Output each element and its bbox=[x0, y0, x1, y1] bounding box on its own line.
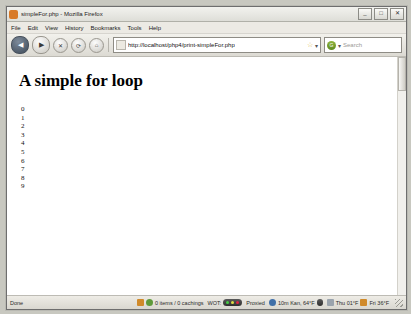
weather-icon bbox=[327, 299, 334, 306]
forward-icon[interactable]: ▶ bbox=[32, 36, 50, 54]
network-indicator[interactable]: 10m Kan, 64°F bbox=[269, 299, 323, 306]
window-title: simpleFor.php - Mozilla Firefox bbox=[21, 11, 103, 17]
menu-item-edit[interactable]: Edit bbox=[28, 25, 38, 31]
list-item: 5 bbox=[21, 148, 396, 157]
wot-dot-red-icon bbox=[236, 301, 239, 304]
url-text[interactable]: http://localhost/php4/print-simpleFor.ph… bbox=[128, 42, 235, 48]
search-chevron-icon[interactable]: ▾ bbox=[338, 42, 341, 49]
list-item: 0 bbox=[21, 105, 396, 114]
list-item: 1 bbox=[21, 114, 396, 123]
menu-item-bookmarks[interactable]: Bookmarks bbox=[91, 25, 121, 31]
scrollbar-thumb[interactable] bbox=[398, 57, 406, 91]
reload-icon[interactable]: ⟳ bbox=[71, 38, 86, 53]
list-item: 6 bbox=[21, 157, 396, 166]
menu-item-history[interactable]: History bbox=[65, 25, 84, 31]
vertical-scrollbar[interactable] bbox=[397, 57, 406, 295]
transfer-indicator[interactable]: 0 items / 0 cachings bbox=[137, 299, 204, 306]
proxy-indicator[interactable]: Proxied bbox=[246, 300, 265, 306]
transfer-icon bbox=[137, 299, 144, 306]
menu-item-tools[interactable]: Tools bbox=[128, 25, 142, 31]
list-item: 2 bbox=[21, 122, 396, 131]
weather-sun-icon bbox=[360, 299, 367, 306]
menu-item-help[interactable]: Help bbox=[149, 25, 161, 31]
list-item: 4 bbox=[21, 139, 396, 148]
list-item: 7 bbox=[21, 165, 396, 174]
status-text: Done bbox=[10, 300, 23, 306]
network-pill bbox=[317, 299, 323, 306]
minimize-button[interactable]: _ bbox=[358, 8, 372, 20]
page-title: A simple for loop bbox=[19, 71, 396, 91]
loop-output-list: 0 1 2 3 4 5 6 7 8 9 bbox=[21, 105, 396, 191]
network-label: 10m Kan, 64°F bbox=[278, 300, 315, 306]
window-controls: _ □ ✕ bbox=[358, 8, 404, 20]
close-button[interactable]: ✕ bbox=[390, 8, 404, 20]
menu-item-view[interactable]: View bbox=[45, 25, 58, 31]
wot-label: WOT: bbox=[208, 300, 222, 306]
weather-tomorrow-label: Fri 36°F bbox=[369, 300, 389, 306]
toolbar-separator bbox=[108, 38, 109, 52]
url-bar-icons: ☆ ▾ bbox=[307, 41, 318, 49]
list-item: 8 bbox=[21, 174, 396, 183]
favicon-icon bbox=[116, 40, 126, 50]
stop-icon[interactable]: ✕ bbox=[53, 38, 68, 53]
search-engine-icon[interactable]: G bbox=[327, 41, 336, 50]
weather-indicator[interactable]: Thu 01°F Fri 36°F bbox=[327, 299, 389, 306]
menu-bar: File Edit View History Bookmarks Tools H… bbox=[7, 22, 406, 34]
wot-dot-green-icon bbox=[226, 301, 229, 304]
shield-icon bbox=[146, 299, 153, 306]
transfer-label: 0 items / 0 cachings bbox=[155, 300, 204, 306]
network-icon bbox=[269, 299, 276, 306]
list-item: 9 bbox=[21, 182, 396, 191]
wot-rating-pill[interactable] bbox=[223, 299, 242, 306]
bookmark-star-icon[interactable]: ☆ bbox=[307, 41, 313, 49]
browser-window: simpleFor.php - Mozilla Firefox _ □ ✕ Fi… bbox=[6, 6, 407, 310]
back-icon[interactable]: ◀ bbox=[11, 36, 29, 54]
firefox-icon bbox=[9, 10, 18, 19]
chevron-down-icon[interactable]: ▾ bbox=[315, 42, 318, 49]
wot-indicator[interactable]: WOT: bbox=[208, 299, 243, 306]
resize-grip[interactable] bbox=[395, 299, 403, 307]
weather-today-label: Thu 01°F bbox=[336, 300, 359, 306]
search-box[interactable]: G ▾ Search bbox=[324, 37, 402, 53]
title-bar: simpleFor.php - Mozilla Firefox _ □ ✕ bbox=[7, 7, 406, 22]
home-icon[interactable]: ⌂ bbox=[89, 38, 104, 53]
wot-dot-yellow-icon bbox=[231, 301, 234, 304]
menu-item-file[interactable]: File bbox=[11, 25, 21, 31]
url-bar[interactable]: http://localhost/php4/print-simpleFor.ph… bbox=[113, 37, 321, 53]
page-content: A simple for loop 0 1 2 3 4 5 6 7 8 9 bbox=[7, 57, 406, 295]
search-input[interactable]: Search bbox=[343, 42, 362, 48]
proxy-label: Proxied bbox=[246, 300, 265, 306]
status-bar: Done 0 items / 0 cachings WOT: Proxied 1… bbox=[7, 295, 406, 309]
list-item: 3 bbox=[21, 131, 396, 140]
maximize-button[interactable]: □ bbox=[374, 8, 388, 20]
navigation-toolbar: ◀ ▶ ✕ ⟳ ⌂ http://localhost/php4/print-si… bbox=[7, 34, 406, 57]
